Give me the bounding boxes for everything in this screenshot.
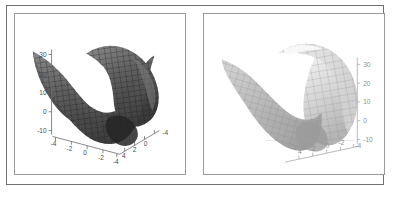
left-x-tick-neg2: -2 (66, 145, 72, 152)
left-y-tick-neg4: -4 (162, 129, 168, 136)
right-x-tick-4: 4 (298, 148, 302, 155)
right-surface-plot: 30 20 10 0 -10 4 2 0 -2 -4 (204, 14, 384, 174)
right-z-tick-30: 30 (363, 61, 371, 68)
right-z-tick-neg10: -10 (363, 136, 373, 143)
left-surface-plot: 30 20 10 0 -10 -4 -2 0 -2 -4 (15, 14, 185, 174)
left-z-tick-0: 0 (43, 108, 47, 115)
right-x-tick-0: 0 (326, 142, 330, 149)
left-z-tick-neg10: -10 (37, 127, 47, 134)
right-plot-z-axis: 30 20 10 0 -10 (357, 57, 373, 144)
left-y-tick-4: 4 (122, 152, 126, 159)
left-z-tick-10: 10 (39, 89, 47, 96)
left-y-tick-0: 0 (144, 140, 148, 147)
left-y-tick-2: 2 (133, 146, 137, 153)
left-plot-panel: 30 20 10 0 -10 -4 -2 0 -2 -4 (14, 13, 186, 175)
left-x-tick-neg4: -4 (51, 140, 57, 147)
right-z-tick-20: 20 (363, 80, 371, 87)
left-z-tick-30: 30 (39, 51, 47, 58)
left-x-tick-0: 0 (83, 149, 87, 156)
left-x-tick-2: -2 (98, 154, 104, 161)
right-plot-panel: 30 20 10 0 -10 4 2 0 -2 -4 (203, 13, 385, 175)
right-x-tick-neg2: -2 (339, 139, 345, 146)
right-surface-body (222, 44, 358, 152)
right-z-tick-10: 10 (363, 98, 371, 105)
right-x-tick-neg4: -4 (355, 142, 361, 149)
left-x-tick-4: -4 (113, 158, 119, 165)
right-x-tick-2: 2 (312, 145, 316, 152)
left-z-tick-20: 20 (39, 71, 47, 78)
figure-root: 30 20 10 0 -10 -4 -2 0 -2 -4 (0, 0, 396, 199)
right-z-tick-0: 0 (363, 117, 367, 124)
